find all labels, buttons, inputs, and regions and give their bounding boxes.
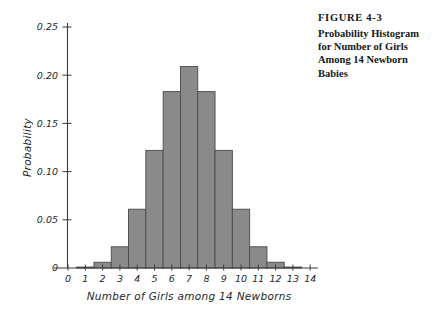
x-axis-tick-label: 3 (117, 273, 123, 284)
x-axis-tick-label: 11 (252, 273, 264, 284)
x-axis-tick-label: 10 (235, 273, 247, 284)
figure-title-line: Probability Histogram (318, 27, 434, 40)
x-axis-tick-label: 14 (304, 273, 316, 284)
x-axis-tick-label: 13 (287, 273, 299, 284)
x-axis-tick-label: 6 (169, 273, 175, 284)
x-axis-tick-label: 8 (203, 273, 209, 284)
probability-histogram: 00.050.100.150.200.250123456789101112131… (0, 0, 318, 311)
x-axis-title: Number of Girls among 14 Newborns (87, 290, 292, 302)
y-axis-tick-label: 0.15 (37, 118, 58, 129)
figure-caption: FIGURE 4-3 Probability Histogram for Num… (318, 12, 434, 80)
histogram-bar (232, 209, 249, 268)
figure-number: FIGURE 4-3 (318, 12, 434, 23)
x-axis-tick-label: 5 (151, 273, 157, 284)
figure-title-line: Among 14 Newborn (318, 53, 434, 66)
x-axis-tick-label: 4 (134, 273, 140, 284)
histogram-bar (163, 92, 180, 268)
x-axis-tick-label: 2 (100, 273, 106, 284)
histogram-bar (146, 150, 163, 268)
y-axis-title: Probability (21, 117, 33, 177)
histogram-bar (198, 92, 215, 268)
y-axis-tick-label: 0.10 (37, 166, 58, 177)
x-axis-tick-label: 7 (186, 273, 192, 284)
x-axis-tick-label: 9 (221, 273, 227, 284)
y-axis-tick-label: 0.25 (37, 21, 58, 32)
figure-title-line: Babies (318, 67, 434, 80)
y-axis-tick-label: 0.20 (37, 70, 58, 81)
figure-title-line: for Number of Girls (318, 40, 434, 53)
y-axis-tick-label: 0 (52, 262, 58, 273)
x-axis-tick-label: 12 (270, 273, 282, 284)
histogram-bar (180, 67, 197, 268)
histogram-bar (129, 209, 146, 268)
chart-canvas: 00.050.100.150.200.250123456789101112131… (0, 0, 318, 311)
y-axis-tick-label: 0.05 (37, 214, 58, 225)
x-axis-tick-label: 0 (65, 273, 71, 284)
figure-title: Probability Histogram for Number of Girl… (318, 27, 434, 80)
x-axis-tick-label: 1 (82, 273, 88, 284)
histogram-bar (215, 150, 232, 268)
